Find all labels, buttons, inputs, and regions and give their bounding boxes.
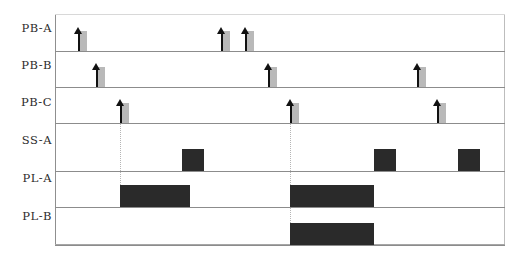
arrow-head [241,27,249,34]
event-marker-pb-c-3 [433,99,446,123]
up-arrow-icon [286,99,295,123]
baseline-pb-c [55,123,505,124]
axis-top-border [55,14,505,15]
arrow-stem [221,32,223,51]
event-marker-pb-c-2 [286,99,299,123]
row-label-pb-a: PB-A [0,21,52,35]
arrow-stem [120,104,122,123]
arrow-head [74,27,82,34]
arrow-stem [78,32,80,51]
arrow-head [433,99,441,106]
arrow-head [264,63,272,70]
baseline-pl-b [55,245,505,246]
up-arrow-icon [116,99,125,123]
arrow-head [413,63,421,70]
pulse-ss-a-1 [182,149,204,171]
up-arrow-icon [433,99,442,123]
arrow-stem [417,68,419,87]
pulse-pl-b-1 [290,223,374,245]
axis-right-border [504,14,505,245]
up-arrow-icon [217,27,226,51]
pulse-ss-a-3 [458,149,480,171]
row-label-pl-a: PL-A [0,171,52,185]
baseline-ss-a [55,171,505,172]
arrow-head [217,27,225,34]
pulse-pl-a-2 [290,185,374,207]
row-label-pb-c: PB-C [0,95,52,109]
event-marker-pb-a-3 [241,27,254,51]
arrow-stem [290,104,292,123]
event-marker-pb-a-1 [74,27,87,51]
arrow-head [92,63,100,70]
plot-area [55,14,505,245]
timing-diagram-figure: PB-APB-BPB-CSS-APL-APL-B [0,0,518,262]
arrow-stem [268,68,270,87]
event-marker-pb-c-1 [116,99,129,123]
up-arrow-icon [241,27,250,51]
event-marker-pb-a-2 [217,27,230,51]
event-marker-pb-b-3 [413,63,426,87]
arrow-head [116,99,124,106]
event-marker-pb-b-2 [264,63,277,87]
up-arrow-icon [413,63,422,87]
up-arrow-icon [74,27,83,51]
pulse-pl-a-1 [120,185,190,207]
baseline-pl-a [55,207,505,208]
up-arrow-icon [92,63,101,87]
row-label-pb-b: PB-B [0,58,52,72]
arrow-head [286,99,294,106]
arrow-stem [437,104,439,123]
row-label-pl-b: PL-B [0,209,52,223]
arrow-stem [245,32,247,51]
pulse-ss-a-2 [374,149,396,171]
event-marker-pb-b-1 [92,63,105,87]
baseline-pb-a [55,51,505,52]
baseline-pb-b [55,87,505,88]
arrow-stem [96,68,98,87]
axis-left-border [55,14,56,245]
row-label-ss-a: SS-A [0,133,52,147]
up-arrow-icon [264,63,273,87]
